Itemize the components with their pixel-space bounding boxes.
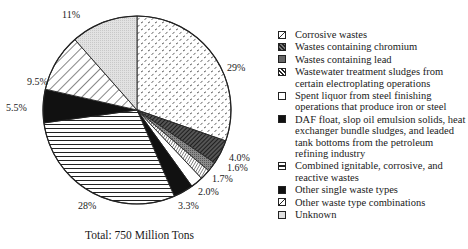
legend-swatch-icon [278,211,286,219]
slice-percent-label: 1.6% [227,163,248,173]
legend-label: DAF float, slop oil emulsion solids, hea… [295,114,468,160]
legend-label: Wastes containing lead [295,54,468,65]
legend-item: Wastes containing lead [278,54,468,65]
legend-item: Combined ignitable, corrosive, and react… [278,160,468,183]
legend-label: Spent liquor from steel finishing operat… [295,90,468,113]
slice-percent-label: 2.0% [198,187,219,197]
legend-item: Other waste type combinations [278,197,468,208]
legend-label: Wastewater treatment sludges from certai… [295,66,468,89]
legend-swatch-icon [278,186,286,194]
legend-item: Other single waste types [278,184,468,195]
legend-label: Wastes containing chromium [295,41,468,52]
slice-percent-label: 1.7% [212,174,233,184]
legend-item: Wastewater treatment sludges from certai… [278,66,468,89]
legend-item: Wastes containing chromium [278,41,468,52]
legend-swatch-icon [278,43,286,51]
legend-label: Combined ignitable, corrosive, and react… [295,160,468,183]
legend-label: Other single waste types [295,184,468,195]
legend-item: DAF float, slop oil emulsion solids, hea… [278,114,468,160]
legend-swatch-icon [278,92,286,100]
legend-swatch-icon [278,162,286,170]
legend-label: Corrosive wastes [295,29,468,40]
legend: Corrosive wastesWastes containing chromi… [278,29,468,222]
slice-percent-label: 3.3% [178,201,199,211]
legend-swatch-icon [278,198,286,206]
legend-label: Other waste type combinations [295,197,468,208]
legend-item: Spent liquor from steel finishing operat… [278,90,468,113]
legend-swatch-icon [278,31,286,39]
slice-percent-label: 29% [227,63,245,73]
total-caption: Total: 750 Million Tons [85,229,194,241]
legend-swatch-icon [278,68,286,76]
legend-swatch-icon [278,55,286,63]
slice-percent-label: 5.5% [6,103,27,113]
legend-swatch-icon [278,115,286,123]
slice-percent-label: 28% [78,201,96,211]
legend-label: Unknown [295,209,468,220]
slice-percent-label: 11% [62,10,80,20]
slice-percent-label: 9.5% [27,77,48,87]
legend-item: Corrosive wastes [278,29,468,40]
legend-item: Unknown [278,209,468,220]
